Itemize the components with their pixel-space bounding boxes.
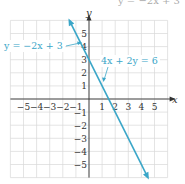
x-axis-label: x bbox=[172, 94, 178, 105]
y-tick-label: 2 bbox=[81, 68, 87, 78]
x-tick-label: −2 bbox=[56, 102, 69, 112]
equation-label-standard-form: 4x + 2y = 6 bbox=[101, 55, 158, 66]
y-tick-label: −5 bbox=[74, 160, 88, 170]
x-tick-label: −5 bbox=[17, 102, 31, 112]
coordinate-plane: y = −2x + 3 −5−4−3−2−11234554321−1−2−3−4… bbox=[0, 0, 185, 184]
equation-label-slope-intercept: y = −2x + 3 bbox=[3, 40, 63, 51]
eq2-pointer-arrowhead-icon bbox=[102, 78, 106, 83]
x-tick-label: 1 bbox=[99, 102, 105, 112]
y-tick-label: −4 bbox=[74, 147, 88, 157]
x-tick-label: 5 bbox=[152, 102, 158, 112]
axes bbox=[10, 14, 175, 177]
y-tick-label: 3 bbox=[81, 55, 87, 65]
y-tick-label: −1 bbox=[74, 108, 87, 118]
x-tick-label: −4 bbox=[30, 102, 44, 112]
caption-fragment: y = −2x + 3 bbox=[117, 0, 180, 6]
y-tick-label: −3 bbox=[74, 134, 88, 144]
y-tick-label: −2 bbox=[74, 121, 87, 131]
y-tick-label: 5 bbox=[81, 29, 87, 39]
y-axis-label: y bbox=[85, 7, 92, 18]
x-tick-label: 3 bbox=[125, 102, 131, 112]
y-tick-label: 1 bbox=[81, 81, 87, 91]
x-tick-label: −3 bbox=[43, 102, 57, 112]
x-tick-label: 4 bbox=[139, 102, 145, 112]
